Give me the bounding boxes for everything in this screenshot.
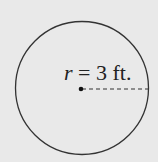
center-point bbox=[79, 87, 84, 92]
radius-variable: r bbox=[64, 60, 73, 85]
radius-label: r = 3 ft. bbox=[64, 62, 131, 84]
radius-value: 3 ft. bbox=[96, 60, 131, 85]
equals-sign: = bbox=[73, 60, 96, 85]
